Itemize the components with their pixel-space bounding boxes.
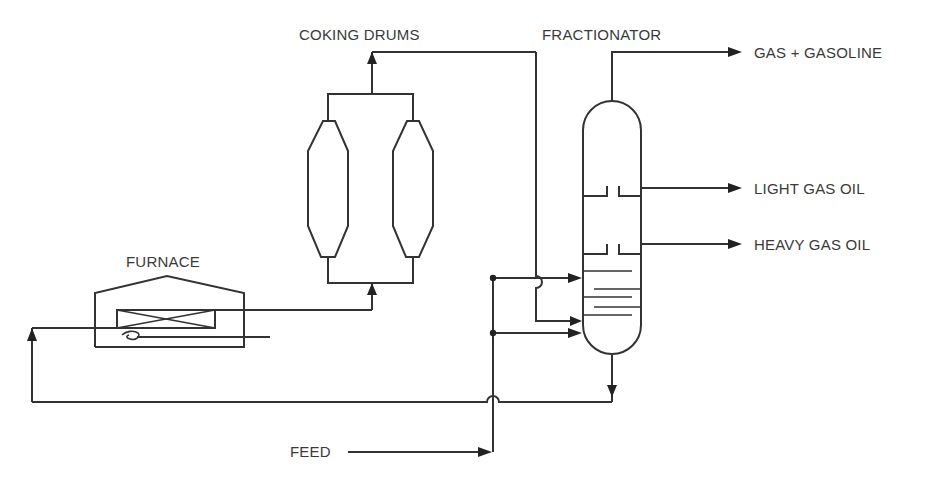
product-lines [612,47,742,249]
gas-gasoline-arrow-icon [728,47,742,57]
riser-arrow-icon [27,328,37,341]
furnace [95,276,270,347]
light-gas-oil-arrow-icon [728,183,742,193]
feed-label: FEED [290,444,331,459]
coking-process-diagram: COKING DRUMS FRACTIONATOR GAS + GASOLINE… [0,0,934,483]
fractionator-column [583,101,641,354]
drum-overhead-arrow-icon [367,52,377,64]
coking-drum-right [393,121,433,257]
furnace-label: FURNACE [126,254,200,269]
gas-gasoline-label: GAS + GASOLINE [754,45,882,60]
recycle-line [27,328,617,402]
light-gas-oil-label: LIGHT GAS OIL [754,181,865,196]
tray-middle-right [619,244,641,254]
drum-inlet-arrow-icon [367,283,377,295]
coking-drums [308,52,582,326]
vapor-inlet-arrow-icon [570,316,582,326]
bottom-return-line [32,396,612,402]
tray-upper-right [619,186,641,196]
tray-middle-left [583,244,607,254]
drum-bottom-manifold [328,257,413,283]
coking-drums-label: COKING DRUMS [299,27,420,42]
burner-flame-icon [122,331,139,339]
junction-dot-lower [490,330,496,336]
fractionator [583,101,641,354]
feed-upper-arrow-icon [568,273,582,283]
vapor-downcomer-line [536,52,570,321]
heavy-gas-oil-arrow-icon [728,239,742,249]
fractionator-label: FRACTIONATOR [542,27,661,42]
tray-upper-left [583,186,607,196]
coking-drum-left [308,121,348,257]
drum-top-manifold [328,94,413,121]
bottoms-arrow-icon [607,385,617,397]
feed-lower-arrow-icon [568,328,582,338]
gas-gasoline-line [612,52,728,101]
feed-lines [348,273,582,457]
heavy-gas-oil-label: HEAVY GAS OIL [754,237,870,252]
junction-dot-upper [490,275,496,281]
feed-arrow-icon [478,447,492,457]
